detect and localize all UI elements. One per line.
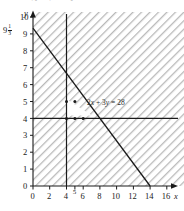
eq-part-2: + 3 <box>94 98 106 107</box>
x-tick-label-0: 0 <box>31 192 35 201</box>
x-tick-label-6: 6 <box>81 192 85 201</box>
point-7-4 <box>82 117 85 120</box>
y-tick-label-10: 10 <box>20 13 29 22</box>
x-tick-label-2: 2 <box>47 192 51 201</box>
x-tick-label-8: 8 <box>97 192 101 201</box>
point-5-4 <box>65 117 68 120</box>
line-equation-label: 2x + 3y = 28 <box>87 98 125 107</box>
y-intercept-whole: 9 <box>3 26 7 35</box>
y-tick-label-5: 5 <box>23 98 27 107</box>
y-tick-label-2: 2 <box>23 148 27 157</box>
x-tick-label-16: 16 <box>162 192 171 201</box>
eq-part-3: = 28 <box>109 98 124 107</box>
graph-figure: x, y ≥ 0, 2x + 3y ≤ 28 <box>0 0 184 211</box>
x-axis-name: x <box>174 192 178 201</box>
x-tick-label-14: 14 <box>145 192 154 201</box>
y-intercept-denominator: 3 <box>8 31 11 37</box>
x-tick-label-4: 4 <box>64 192 68 201</box>
point-6-5 <box>73 100 76 103</box>
y-intercept-label: 9 1 3 <box>3 24 12 37</box>
point-5-5 <box>65 100 68 103</box>
x-tick-label-10: 10 <box>112 192 121 201</box>
y-tick-label-4: 4 <box>23 115 27 124</box>
y-tick-label-6: 6 <box>23 81 27 90</box>
x-tick-label-5: 5 <box>73 189 77 196</box>
y-tick-label-1: 1 <box>23 165 27 174</box>
x-tick-label-12: 12 <box>128 192 137 201</box>
y-tick-label-9: 9 <box>23 30 27 39</box>
y-tick-label-8: 8 <box>23 47 27 56</box>
y-tick-label-3: 3 <box>23 131 27 140</box>
y-tick-label-7: 7 <box>23 64 27 73</box>
point-6-4 <box>73 117 76 120</box>
y-tick-label-0: 0 <box>23 182 27 191</box>
